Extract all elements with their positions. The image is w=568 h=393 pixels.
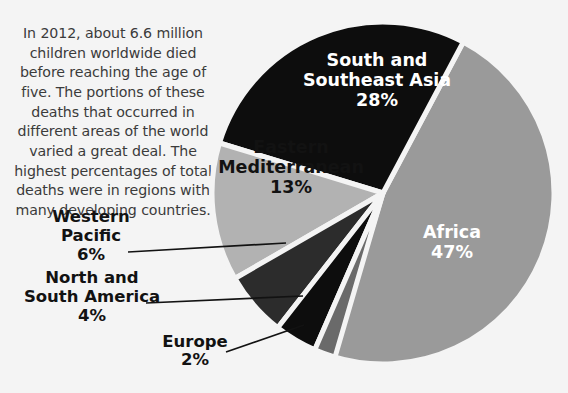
pie-label-western-pacific: WesternPacific6% — [52, 207, 130, 263]
pie-label-africa: Africa47% — [423, 222, 481, 262]
chart-page: In 2012, about 6.6 million children worl… — [0, 0, 568, 393]
pie-chart: Africa47%South andSoutheast Asia28%Easte… — [0, 0, 568, 393]
pie-label-north-and-south-america: North andSouth America4% — [24, 268, 160, 324]
pie-label-europe: Europe2% — [162, 332, 228, 370]
